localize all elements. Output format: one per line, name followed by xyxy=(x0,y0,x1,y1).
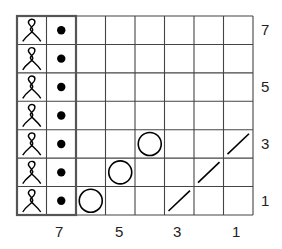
purl-dot-icon xyxy=(57,111,65,119)
twisted-stitch-icon xyxy=(23,133,41,155)
row-label-3: 3 xyxy=(261,135,269,152)
twisted-stitch-icon xyxy=(23,19,41,41)
yarn-over-circle-icon xyxy=(109,161,132,184)
twisted-stitch-icon xyxy=(23,161,41,183)
row-label-7: 7 xyxy=(261,21,269,38)
twisted-stitch-icon xyxy=(23,48,41,70)
twisted-stitch-icon xyxy=(23,76,41,98)
col-label-5: 5 xyxy=(115,223,123,240)
col-label-3: 3 xyxy=(173,223,181,240)
decrease-slash-icon xyxy=(228,134,250,154)
purl-dot-icon xyxy=(57,83,65,91)
decrease-slash-icon xyxy=(169,191,191,211)
col-label-1: 1 xyxy=(232,223,240,240)
row-label-5: 5 xyxy=(261,78,269,95)
row-label-1: 1 xyxy=(261,192,269,209)
decrease-slash-icon xyxy=(198,162,220,182)
yarn-over-circle-icon xyxy=(79,189,102,212)
purl-dot-icon xyxy=(57,26,65,34)
purl-dot-icon xyxy=(57,168,65,176)
purl-dot-icon xyxy=(57,197,65,205)
purl-dot-icon xyxy=(57,140,65,148)
purl-dot-icon xyxy=(57,54,65,62)
knitting-chart: 7 5 3 1 7 5 3 1 xyxy=(0,0,282,249)
chart-grid xyxy=(17,16,253,215)
twisted-stitch-icon xyxy=(23,190,41,212)
col-label-7: 7 xyxy=(55,223,63,240)
twisted-stitch-icon xyxy=(23,105,41,127)
yarn-over-circle-icon xyxy=(138,132,161,155)
chart-symbols xyxy=(23,19,249,212)
